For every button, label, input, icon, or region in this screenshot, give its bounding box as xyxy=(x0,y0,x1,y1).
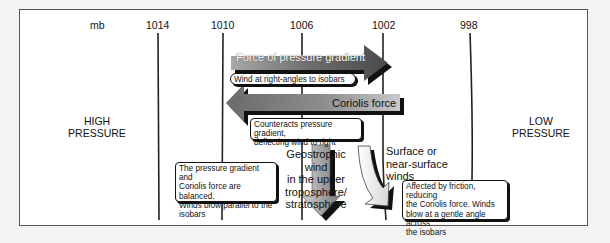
surface-wind-label: Surface or near-surface winds xyxy=(386,145,448,183)
low-pressure-label: LOW PRESSURE xyxy=(506,115,576,139)
coriolis-label: Coriolis force xyxy=(332,97,396,110)
isobar-label-1002: 1002 xyxy=(372,19,395,31)
coriolis-note: Counteracts pressure gradient, deflectin… xyxy=(250,118,362,140)
isobar-label-998: 998 xyxy=(460,19,478,31)
pressure-gradient-label: Force of pressure gradient xyxy=(236,51,365,64)
isobar-label-1006: 1006 xyxy=(290,19,313,31)
axis-unit-label: mb xyxy=(90,19,105,31)
isobar-label-1014: 1014 xyxy=(146,19,169,31)
isobar-1014 xyxy=(158,33,159,220)
geostrophic-wind-label: Geostrophic wind in the upper tropospher… xyxy=(283,148,349,211)
isobar-label-1010: 1010 xyxy=(211,19,234,31)
pressure-gradient-note: Wind at right-angles to isobars xyxy=(230,73,356,85)
geostrophic-note: The pressure gradient and Coriolis force… xyxy=(175,162,277,202)
high-pressure-label: HIGH PRESSURE xyxy=(62,115,132,139)
surface-wind-note: Affected by friction, reducing the Corio… xyxy=(402,180,508,220)
